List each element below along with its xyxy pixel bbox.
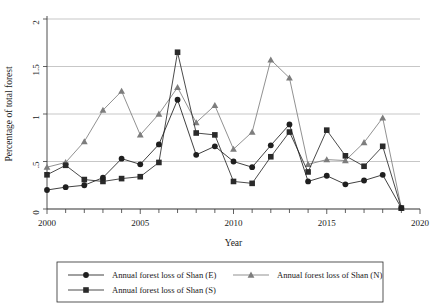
chart-svg: 200020052010201520200.511.52 YearPercent…: [0, 0, 436, 306]
x-tick-label: 2020: [411, 218, 430, 228]
tick-labels-group: 200020052010201520200.511.52: [31, 20, 430, 228]
y-tick-label: 0: [31, 210, 41, 215]
data-point-circle: [119, 156, 125, 162]
data-point-triangle: [118, 88, 125, 94]
forest-loss-line-chart: 200020052010201520200.511.52 YearPercent…: [0, 0, 436, 306]
data-point-triangle: [249, 129, 256, 135]
data-point-circle: [81, 182, 87, 188]
legend-label: Annual forest loss of Shan (S): [112, 285, 216, 295]
data-point-square: [305, 169, 311, 175]
data-point-circle: [44, 187, 50, 193]
data-point-circle: [63, 184, 69, 190]
data-point-circle: [380, 172, 386, 178]
data-point-square: [137, 174, 143, 180]
legend-label: Annual forest loss of Shan (E): [112, 270, 216, 280]
data-point-square: [343, 153, 349, 159]
data-point-circle: [268, 142, 274, 148]
data-point-circle: [249, 164, 255, 170]
data-point-circle: [175, 97, 181, 103]
x-tick-label: 2010: [225, 218, 244, 228]
data-point-circle: [343, 181, 349, 187]
data-point-square: [249, 181, 255, 187]
data-series-group: [44, 49, 405, 211]
y-tick-label: 1: [31, 115, 41, 120]
data-point-square: [119, 176, 125, 182]
data-point-circle: [287, 122, 293, 128]
x-tick-label: 2005: [131, 218, 150, 228]
legend-box: [57, 262, 383, 302]
data-point-circle: [361, 178, 367, 184]
data-point-circle: [231, 159, 237, 165]
data-point-square: [83, 287, 89, 293]
series-square: [44, 49, 404, 210]
data-point-square: [82, 177, 88, 183]
data-point-circle: [324, 173, 330, 179]
data-point-square: [324, 127, 330, 133]
data-point-triangle: [323, 156, 330, 162]
data-point-circle: [100, 175, 106, 181]
x-tick-label: 2015: [318, 218, 337, 228]
data-point-circle: [156, 142, 162, 148]
x-axis-title: Year: [225, 238, 243, 248]
legend-label: Annual forest loss of Shan (N): [277, 270, 382, 280]
data-point-triangle: [379, 114, 386, 120]
data-point-square: [156, 160, 162, 166]
y-tick-label: .5: [31, 161, 41, 168]
data-point-square: [231, 179, 237, 185]
data-point-circle: [83, 272, 89, 278]
data-point-circle: [193, 152, 199, 158]
y-tick-label: 1.5: [31, 64, 41, 76]
x-tick-label: 2000: [38, 218, 57, 228]
data-point-square: [361, 163, 367, 169]
data-point-square: [63, 163, 69, 169]
data-point-triangle: [174, 84, 181, 90]
data-point-triangle: [81, 138, 88, 144]
y-axis-title: Percentage of total forest: [4, 66, 14, 162]
data-point-square: [175, 49, 181, 55]
data-point-circle: [305, 179, 311, 185]
data-point-square: [268, 154, 274, 160]
data-point-triangle: [267, 56, 274, 62]
data-point-triangle: [211, 102, 218, 108]
y-tick-label: 2: [31, 20, 41, 25]
data-point-circle: [137, 161, 143, 167]
data-point-square: [212, 132, 218, 138]
data-point-square: [193, 130, 199, 136]
series-triangle: [44, 56, 405, 210]
data-point-circle: [398, 205, 404, 211]
data-point-square: [380, 144, 386, 150]
legend: Annual forest loss of Shan (E)Annual for…: [57, 262, 383, 302]
data-point-square: [44, 172, 50, 178]
series-line: [47, 60, 401, 208]
data-point-circle: [212, 143, 218, 149]
